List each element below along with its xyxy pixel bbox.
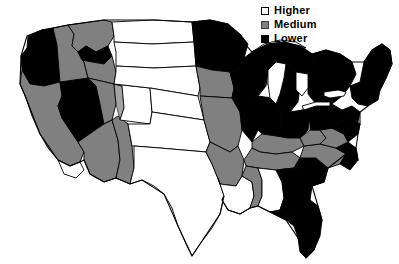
legend-swatch-lower-icon (261, 35, 269, 43)
legend-label-higher: Higher (274, 5, 310, 16)
legend-item-lower[interactable]: Lower (261, 32, 317, 45)
lake-huron (296, 72, 308, 96)
region-maine[interactable] (360, 44, 392, 90)
region-north-dakota[interactable] (112, 20, 194, 44)
lake-ontario (324, 90, 346, 98)
map-figure: Higher Medium Lower (0, 0, 399, 264)
legend-swatch-higher-icon (261, 7, 269, 15)
us-choropleth-map (0, 0, 399, 264)
region-south-dakota[interactable] (114, 42, 196, 68)
region-washington[interactable] (27, 28, 58, 61)
map-legend: Higher Medium Lower (261, 4, 317, 46)
legend-swatch-medium-icon (261, 21, 269, 29)
legend-item-higher[interactable]: Higher (261, 4, 317, 17)
region-texas[interactable] (130, 146, 224, 256)
legend-label-lower: Lower (274, 33, 307, 44)
region-minnesota[interactable] (192, 20, 248, 72)
legend-label-medium: Medium (274, 19, 317, 30)
map-svg (0, 0, 399, 264)
legend-item-medium[interactable]: Medium (261, 18, 317, 31)
